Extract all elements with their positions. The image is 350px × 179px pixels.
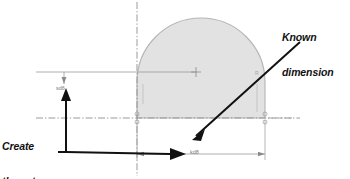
cad-sketch-canvas: Known dimension Create these two dimensi… bbox=[0, 0, 350, 179]
create-dimension-leader-horizontal bbox=[66, 152, 170, 154]
create-dimension-arrowhead-right-icon bbox=[170, 148, 186, 160]
create-dimensions-line2: these two bbox=[2, 176, 59, 179]
known-dimension-arrowhead-icon bbox=[192, 129, 205, 141]
known-dimension-annotation: Known dimension bbox=[282, 8, 334, 102]
known-dimension-line1: Known bbox=[282, 32, 334, 44]
vertical-dimension-label[interactable]: sd6 bbox=[56, 85, 65, 91]
horizontal-dimension-label[interactable]: kd8 bbox=[190, 149, 199, 155]
arc-radius-label[interactable]: R bbox=[255, 70, 259, 76]
known-dimension-line2: dimension bbox=[282, 67, 334, 79]
create-dimensions-annotation: Create these two dimensions bbox=[2, 117, 59, 179]
create-dimensions-line1: Create bbox=[2, 141, 59, 153]
